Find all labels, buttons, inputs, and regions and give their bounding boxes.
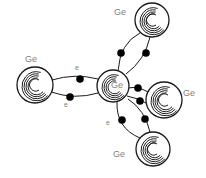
electron-dot <box>136 97 144 105</box>
atom-left <box>16 66 57 107</box>
electron-dot <box>76 75 84 83</box>
atom-top-right <box>135 2 173 40</box>
germanium-bond-diagram: Ge Ge Ge Ge Ge e e e <box>0 0 206 178</box>
electron-label: e <box>75 64 79 71</box>
atom-label-right: Ge <box>183 88 195 98</box>
atom-label-left: Ge <box>25 54 37 64</box>
electron-dot <box>66 93 74 101</box>
electron-dot <box>117 49 125 57</box>
electron-dot <box>134 84 142 92</box>
atom-bottom-right <box>136 131 174 169</box>
electron-label: e <box>64 101 68 108</box>
atom-label-center: Ge <box>111 80 123 90</box>
atom-label-top-right: Ge <box>114 7 126 17</box>
atom-label-bottom-right: Ge <box>113 149 125 159</box>
bond-center-left <box>51 76 98 96</box>
electron-dot <box>141 115 149 123</box>
electron-label: e <box>106 119 110 126</box>
electron-dot <box>142 49 150 57</box>
atom-right <box>145 81 186 122</box>
electron-dot <box>118 116 126 124</box>
